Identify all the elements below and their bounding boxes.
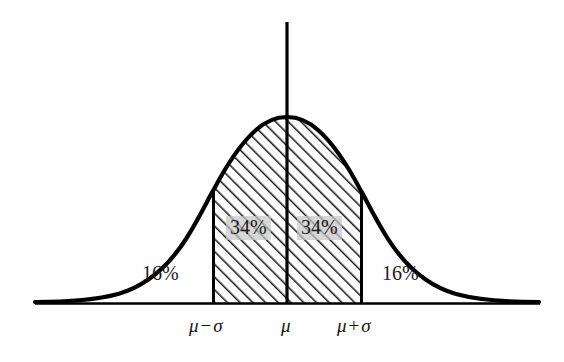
left-sigma-percentage-text: 34%	[226, 216, 271, 240]
sigma-symbol: σ	[361, 315, 370, 336]
right-sigma-percentage-label: 34%	[297, 216, 342, 240]
plus-operator: +	[347, 315, 362, 336]
mu-symbol: μ	[337, 315, 347, 336]
right-sigma-percentage-text: 34%	[297, 216, 342, 240]
left-tail-percentage-label: 16%	[142, 262, 179, 285]
mu-symbol: μ	[281, 315, 291, 336]
right-tail-percentage-label: 16%	[382, 262, 419, 285]
left-tail-percentage-text: 16%	[142, 263, 179, 284]
left-sigma-percentage-label: 34%	[226, 216, 271, 240]
normal-distribution-figure: 16% 34% 34% 16% μ−σ μ μ+σ	[0, 0, 564, 362]
mu-symbol: μ	[189, 315, 199, 336]
axis-tick-label-mu: μ	[281, 316, 291, 335]
axis-tick-label-mu-minus-sigma: μ−σ	[189, 316, 223, 335]
distribution-chart-svg	[0, 0, 564, 362]
minus-operator: −	[199, 315, 214, 336]
right-tail-percentage-text: 16%	[382, 263, 419, 284]
sigma-symbol: σ	[213, 315, 222, 336]
axis-tick-label-mu-plus-sigma: μ+σ	[337, 316, 371, 335]
